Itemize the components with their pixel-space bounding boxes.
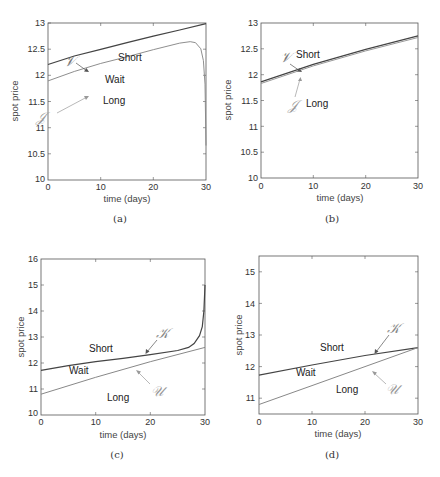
region-label-wait: Wait <box>105 74 125 85</box>
y-tick: 11.5 <box>241 96 258 106</box>
x-tick: 0 <box>38 417 43 427</box>
curve-label-J: 𝒥 <box>35 109 51 126</box>
arrow-J <box>57 97 87 113</box>
x-tick: 0 <box>45 182 50 192</box>
region-label-long: Long <box>107 392 129 403</box>
y-tick: 13 <box>35 18 45 28</box>
x-tick: 20 <box>360 417 370 427</box>
x-tick-labels: 0 10 20 30 <box>256 417 423 427</box>
y-tick-labels: 13 12.5 12 11.5 11 10.5 10 <box>240 18 258 183</box>
y-tick: 12 <box>245 362 255 372</box>
panel-b: 13 12.5 12 11.5 11 10.5 10 0 10 20 30 ti… <box>222 18 423 224</box>
x-axis-label: time (days) <box>104 193 151 204</box>
x-axis-label: time (days) <box>315 428 362 439</box>
x-tick: 20 <box>361 181 371 191</box>
y-tick: 11 <box>29 384 38 394</box>
x-tick: 30 <box>201 182 211 192</box>
y-tick: 12 <box>35 70 45 80</box>
x-tick: 10 <box>307 417 317 427</box>
region-label-long: Long <box>103 95 125 106</box>
region-label-long: Long <box>336 384 358 395</box>
x-axis-label: time (days) <box>317 192 364 203</box>
y-tick: 14 <box>245 299 255 309</box>
y-tick: 10 <box>35 174 45 184</box>
y-tick: 13 <box>245 330 255 340</box>
curve-label-V: 𝒱 <box>280 49 296 65</box>
arrow-K <box>147 340 157 352</box>
region-label-short: Short <box>296 49 320 60</box>
x-axis-label: time (days) <box>100 429 147 440</box>
figure: 13 12.5 12 11.5 11 10.5 10 0 10 20 30 ti… <box>0 0 440 477</box>
y-axis-label: spot price <box>9 80 20 121</box>
region-label-wait: Wait <box>296 367 316 378</box>
plot-frame <box>261 23 418 178</box>
y-tick: 14 <box>28 306 38 316</box>
region-label-short: Short <box>89 343 113 354</box>
plot-frame <box>48 23 206 180</box>
region-label-wait: Wait <box>69 365 89 376</box>
y-tick: 10.5 <box>240 147 258 157</box>
y-tick: 11 <box>246 393 255 403</box>
panel-c: 16 15 14 13 12 11 10 0 10 20 30 time (da… <box>15 254 210 460</box>
x-tick: 10 <box>96 182 106 192</box>
region-label-long: Long <box>306 98 328 109</box>
y-tick: 11 <box>249 122 258 132</box>
arrow-K <box>376 335 389 352</box>
y-tick: 15 <box>245 267 255 277</box>
arrow-U <box>138 372 150 384</box>
x-tick: 10 <box>91 417 101 427</box>
y-tick-labels: 13 12.5 12 11.5 11 10.5 10 <box>27 18 45 184</box>
caption-d: (d) <box>325 449 339 460</box>
x-tick: 30 <box>200 417 210 427</box>
x-tick-labels: 0 10 20 30 <box>45 182 211 192</box>
y-tick: 12.5 <box>27 44 45 54</box>
y-tick: 13 <box>248 18 258 28</box>
y-tick-labels: 15 14 13 12 11 <box>245 267 255 403</box>
x-tick: 30 <box>413 417 423 427</box>
y-tick: 10 <box>248 173 258 183</box>
curve-label-K: 𝒦 <box>156 325 174 341</box>
caption-c: (c) <box>110 449 124 460</box>
y-tick: 10.5 <box>27 149 45 159</box>
x-tick: 0 <box>256 417 261 427</box>
arrow-head-icon <box>298 77 302 81</box>
x-tick: 0 <box>258 181 263 191</box>
x-tick: 10 <box>308 181 318 191</box>
series-U <box>41 347 205 394</box>
curve-label-K: 𝒦 <box>387 320 405 336</box>
arrow-J <box>295 79 300 97</box>
y-tick: 10 <box>28 408 38 418</box>
caption-a: (a) <box>113 213 127 224</box>
x-tick: 30 <box>413 181 423 191</box>
ticks <box>261 23 418 178</box>
region-label-short: Short <box>118 52 142 63</box>
y-tick: 11.5 <box>28 97 45 107</box>
series-K <box>41 285 205 370</box>
arrow-U <box>374 373 386 384</box>
x-tick-labels: 0 10 20 30 <box>38 417 210 427</box>
region-label-short: Short <box>320 342 344 353</box>
panel-a: 13 12.5 12 11.5 11 10.5 10 0 10 20 30 ti… <box>9 18 211 224</box>
y-axis-label: spot price <box>233 314 244 355</box>
caption-b: (b) <box>325 213 339 224</box>
curve-label-U: 𝒰 <box>151 383 168 399</box>
curve-label-J: 𝒥 <box>287 97 303 114</box>
y-tick: 12.5 <box>240 44 258 54</box>
y-tick: 15 <box>28 280 38 290</box>
y-axis-label: spot price <box>222 79 233 120</box>
y-tick: 12 <box>28 358 38 368</box>
panel-d: 15 14 13 12 11 0 10 20 30 time (days) sp… <box>233 256 423 460</box>
y-ticks <box>48 23 206 180</box>
y-tick: 12 <box>248 70 258 80</box>
x-tick-labels: 0 10 20 30 <box>258 181 423 191</box>
x-tick: 20 <box>145 417 155 427</box>
x-tick: 20 <box>148 182 158 192</box>
y-axis-label: spot price <box>15 316 26 357</box>
curve-label-U: 𝒰 <box>386 381 403 397</box>
y-tick: 13 <box>28 332 38 342</box>
y-tick-labels: 16 15 14 13 12 11 10 <box>28 254 38 418</box>
y-tick: 16 <box>28 254 38 264</box>
